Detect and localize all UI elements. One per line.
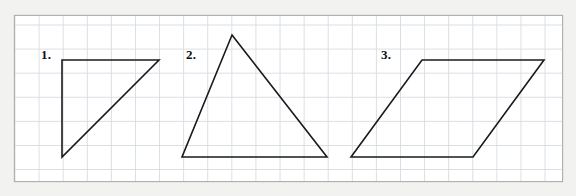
grid-lines — [15, 16, 562, 181]
figure-label-3: 3. — [381, 48, 391, 61]
grid-paper-frame — [14, 15, 563, 182]
figure-label-1: 1. — [41, 48, 51, 61]
worksheet-page: 1. 2. 3. — [0, 0, 576, 196]
figure-label-2: 2. — [186, 48, 196, 61]
